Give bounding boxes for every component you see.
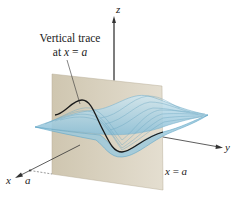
vertical-trace-diagram bbox=[0, 0, 240, 200]
tick-a-label: a bbox=[25, 175, 31, 186]
callout-line1: Vertical trace bbox=[30, 33, 110, 45]
callout-label: Vertical trace at x = a bbox=[30, 33, 110, 58]
callout-prefix: at bbox=[53, 46, 64, 58]
z-axis-label: z bbox=[116, 4, 120, 15]
y-axis-line bbox=[163, 137, 219, 147]
dashed-guide-line bbox=[30, 171, 52, 175]
x-axis-arrowhead bbox=[15, 173, 23, 179]
plane-label: x = a bbox=[165, 166, 187, 177]
callout-line2: at x = a bbox=[30, 47, 110, 59]
x-axis-label: x bbox=[6, 175, 11, 186]
plane-label-eq: = bbox=[170, 165, 182, 177]
plane-label-val: a bbox=[182, 165, 188, 177]
callout-val: a bbox=[81, 46, 87, 58]
y-axis-arrowhead bbox=[216, 145, 224, 150]
callout-eq: = bbox=[69, 46, 81, 58]
y-axis-label: y bbox=[225, 142, 230, 153]
